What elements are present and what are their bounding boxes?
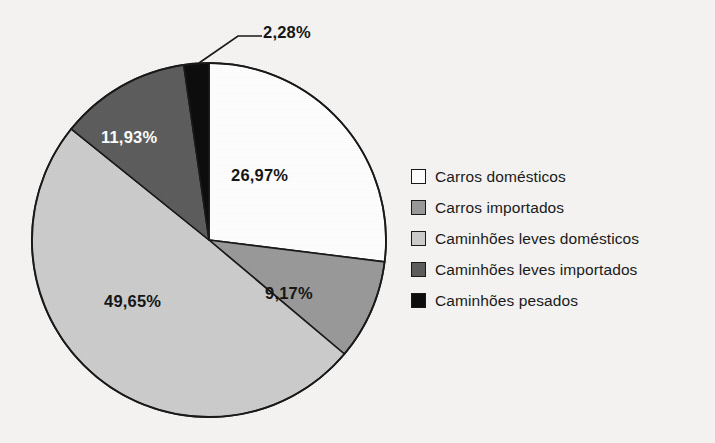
slice-label-carros-importados: 9,17% — [265, 284, 313, 303]
legend-item-3[interactable]: Caminhões leves importados — [411, 254, 639, 285]
legend-item-2[interactable]: Caminhões leves domésticos — [411, 223, 639, 254]
legend-item-label-4: Caminhões pesados — [435, 292, 578, 310]
pie-slice-group — [32, 63, 386, 417]
slice-label-caminhoes-leves-domesticos: 49,65% — [104, 292, 161, 311]
legend-item-label-1: Carros importados — [435, 199, 564, 217]
slice-label-caminhoes-pesados: 2,28% — [263, 23, 311, 42]
pie-slice-0[interactable] — [209, 63, 386, 262]
legend-item-4[interactable]: Caminhões pesados — [411, 285, 639, 316]
legend-item-label-3: Caminhões leves importados — [435, 261, 637, 279]
callout-leader-line — [199, 36, 262, 63]
legend-item-0[interactable]: Carros domésticos — [411, 161, 639, 192]
legend-swatch-carros-importados — [411, 200, 426, 215]
legend-swatch-caminhoes-leves-domesticos — [411, 231, 426, 246]
legend-swatch-caminhoes-pesados — [411, 293, 426, 308]
legend-swatch-carros-domesticos — [411, 169, 426, 184]
legend-item-1[interactable]: Carros importados — [411, 192, 639, 223]
legend-item-label-2: Caminhões leves domésticos — [435, 230, 639, 248]
pie-chart-figure: 2,28% 11,93% 26,97% 9,17% 49,65% Carros … — [0, 0, 715, 443]
chart-legend: Carros domésticosCarros importadosCaminh… — [411, 161, 639, 316]
slice-label-carros-domesticos: 26,97% — [231, 166, 288, 185]
slice-label-caminhoes-leves-importados: 11,93% — [101, 128, 157, 147]
legend-swatch-caminhoes-leves-importados — [411, 262, 426, 277]
legend-item-label-0: Carros domésticos — [435, 168, 566, 186]
